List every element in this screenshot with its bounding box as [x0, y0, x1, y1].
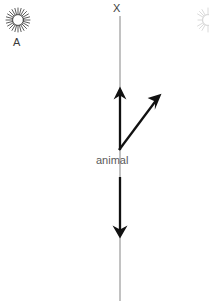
arrow-up [114, 87, 127, 151]
sun-label: A [13, 37, 20, 48]
arrow-diagonal-up-right [119, 94, 162, 150]
diagram-canvas: X A animal [0, 0, 209, 301]
center-label-animal: animal [96, 155, 128, 166]
sun-icon [198, 8, 209, 32]
sun-icon [6, 8, 30, 32]
axis-top-label: X [113, 3, 120, 14]
arrow-down [113, 177, 128, 239]
diagram-svg [0, 0, 209, 301]
